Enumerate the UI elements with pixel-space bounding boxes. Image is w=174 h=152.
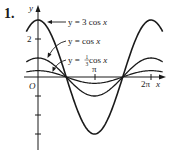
origin-label: O bbox=[29, 81, 36, 91]
x-tick-label-pi: π bbox=[92, 64, 97, 74]
y-axis-arrow-icon bbox=[36, 5, 41, 12]
annotation-third-prefix: y = bbox=[68, 55, 80, 65]
annotation-third-cos-text: cos bbox=[89, 55, 103, 65]
annotation-3cos-var: x bbox=[102, 17, 107, 27]
x-axis-label: x bbox=[155, 79, 160, 89]
annotation-third-cos: y = 1 3 cos x bbox=[68, 54, 107, 67]
y-axis-label: y bbox=[28, 3, 33, 13]
annotation-cos: y = cos x bbox=[68, 36, 100, 46]
x-tick-label-2pi: 2π bbox=[141, 79, 151, 89]
annotation-3cos: y = 3 cos x bbox=[68, 17, 107, 27]
annotation-cos-text: y = cos bbox=[68, 36, 96, 46]
arrow-cos bbox=[49, 41, 66, 55]
annotation-cos-var: x bbox=[95, 36, 100, 46]
y-tick-label-2: 2 bbox=[27, 34, 32, 44]
arrow-third-cos bbox=[54, 60, 66, 69]
annotation-third-var: x bbox=[102, 55, 107, 65]
annotation-third-suffix: cos x bbox=[89, 55, 107, 65]
x-axis-arrow-icon bbox=[159, 75, 166, 80]
arrowhead-3cos-icon bbox=[47, 20, 52, 24]
cosine-graph: y x O 2 π 2π y = 3 cos x y = cos x y = 1… bbox=[0, 0, 174, 152]
annotation-3cos-text: y = 3 cos bbox=[68, 17, 103, 27]
